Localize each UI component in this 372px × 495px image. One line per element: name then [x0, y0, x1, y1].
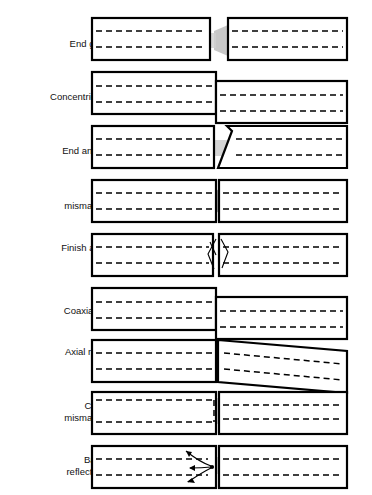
row-end-angle: End angle — [62, 126, 347, 168]
right-fibre-back-reflection — [219, 446, 347, 488]
left-fibre-axial-run-out — [92, 340, 216, 382]
row-na-mismatch: NA mismatch — [64, 180, 347, 222]
row-finish-and-dirt: Finish and dirt — [61, 234, 347, 276]
left-fibre-back-reflection — [92, 446, 216, 488]
row-core-mismatch: Core mismatch — [64, 392, 347, 434]
left-fibre-end-angle — [92, 126, 214, 168]
left-fibre-end-gap — [92, 18, 210, 60]
right-fibre-core-mismatch — [219, 392, 347, 434]
reflection-point-marker — [210, 465, 214, 469]
right-fibre-na-mismatch — [219, 180, 347, 222]
right-fibre-coaxiality — [216, 297, 347, 339]
left-fibre-core-mismatch — [92, 392, 216, 434]
right-fibre-finish-and-dirt — [219, 234, 347, 276]
right-fibre-end-gap — [228, 18, 347, 60]
right-fibre-concentricity — [216, 81, 347, 123]
left-fibre-coaxiality — [92, 288, 216, 330]
row-back-reflection: Back reflection — [66, 446, 347, 488]
left-fibre-concentricity — [92, 72, 216, 114]
right-fibre-end-angle — [218, 126, 347, 168]
left-fibre-finish-and-dirt — [92, 234, 213, 276]
row-end-gap: End gap — [70, 18, 347, 60]
left-fibre-na-mismatch — [92, 180, 216, 222]
fibre-joint-loss-diagram: End gap Concentricity End angle — [0, 0, 372, 495]
